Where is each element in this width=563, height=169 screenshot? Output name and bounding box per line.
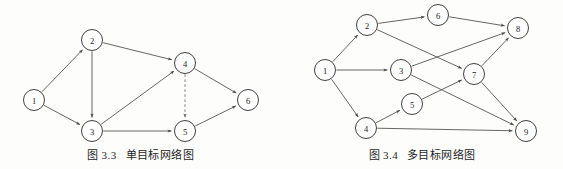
figure-single-objective-network: 123456 图 3.3单目标网络图 — [0, 0, 281, 169]
node-label-6: 6 — [436, 11, 440, 21]
figure-page: 123456 图 3.3单目标网络图 123456789 图 3.4多目标网络图 — [0, 0, 563, 169]
graph-node-6[interactable]: 6 — [238, 90, 259, 111]
node-label-6: 6 — [246, 96, 250, 106]
caption-number-right: 图 3.4 — [369, 149, 399, 161]
node-label-9: 9 — [524, 127, 528, 137]
node-label-5: 5 — [410, 100, 414, 110]
edge-1-to-2 — [333, 35, 358, 62]
node-label-3: 3 — [399, 66, 403, 76]
edge-1-to-2 — [42, 50, 83, 92]
node-label-1: 1 — [323, 66, 327, 76]
graph-node-7[interactable]: 7 — [464, 64, 485, 85]
graph-node-1[interactable]: 1 — [315, 60, 336, 81]
single-objective-network-graph: 123456 — [0, 0, 281, 145]
edge-3-to-9 — [411, 75, 514, 125]
edge-4-to-5 — [376, 110, 400, 122]
edge-1-to-3 — [44, 105, 80, 124]
figure-caption-right: 图 3.4多目标网络图 — [281, 146, 563, 162]
graph-node-8[interactable]: 8 — [508, 18, 529, 39]
node-label-1: 1 — [32, 96, 36, 106]
edge-2-to-4 — [103, 43, 172, 60]
edge-2-to-7 — [377, 30, 461, 69]
graph-node-4[interactable]: 4 — [175, 53, 196, 74]
figure-caption-left: 图 3.3单目标网络图 — [0, 146, 281, 162]
caption-number-left: 图 3.3 — [87, 149, 117, 161]
graph-node-4[interactable]: 4 — [356, 118, 377, 139]
graph-node-5[interactable]: 5 — [175, 121, 196, 142]
multi-objective-network-graph: 123456789 — [281, 0, 563, 145]
node-label-7: 7 — [472, 70, 476, 80]
graph-node-2[interactable]: 2 — [357, 15, 378, 36]
edge-7-to-8 — [482, 38, 509, 66]
node-layer: 123456789 — [315, 5, 537, 142]
graph-node-5[interactable]: 5 — [402, 94, 423, 115]
graph-node-1[interactable]: 1 — [24, 90, 45, 111]
edge-layer — [42, 43, 236, 131]
graph-node-9[interactable]: 9 — [516, 121, 537, 142]
node-label-2: 2 — [90, 36, 94, 46]
edge-4-to-9 — [377, 128, 512, 131]
node-label-8: 8 — [516, 24, 520, 34]
edge-3-to-4 — [101, 71, 174, 124]
node-label-2: 2 — [365, 21, 369, 31]
edge-2-to-6 — [378, 17, 424, 24]
graph-node-3[interactable]: 3 — [391, 60, 412, 81]
graph-node-6[interactable]: 6 — [428, 5, 449, 26]
edge-7-to-9 — [482, 82, 517, 121]
node-label-5: 5 — [183, 127, 187, 137]
edge-1-to-4 — [332, 79, 359, 117]
edge-5-to-6 — [195, 106, 236, 126]
graph-node-2[interactable]: 2 — [82, 30, 103, 51]
graph-node-3[interactable]: 3 — [82, 121, 103, 142]
caption-title-right: 多目标网络图 — [407, 149, 475, 161]
figure-multi-objective-network: 123456789 图 3.4多目标网络图 — [281, 0, 563, 169]
caption-title-left: 单目标网络图 — [126, 149, 194, 161]
edge-4-to-6 — [195, 69, 236, 93]
edge-6-to-8 — [449, 17, 504, 26]
edge-3-to-8 — [412, 33, 505, 67]
node-label-3: 3 — [90, 127, 94, 137]
edge-layer — [332, 17, 517, 131]
